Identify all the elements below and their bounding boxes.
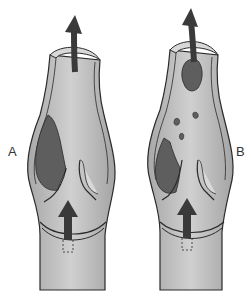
panel-b-vessel xyxy=(148,8,233,290)
embolus-small xyxy=(179,133,183,139)
panel-a-vessel xyxy=(28,15,115,290)
embolus-large xyxy=(182,59,202,91)
panel-label-b: B xyxy=(236,144,245,159)
venous-valve-diagram xyxy=(0,0,251,297)
embolus-small xyxy=(174,118,180,125)
embolus-small xyxy=(193,112,198,118)
panel-label-a: A xyxy=(8,144,17,159)
